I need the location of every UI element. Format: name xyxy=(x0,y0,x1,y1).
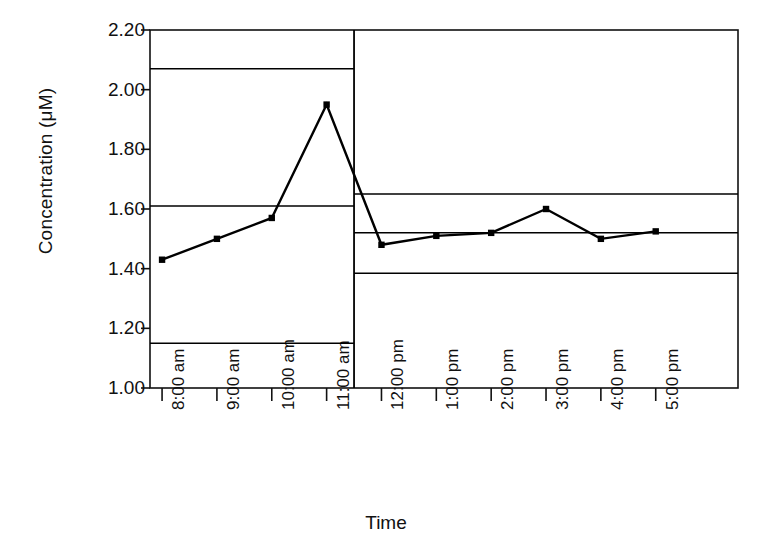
plot-frame xyxy=(150,30,738,388)
control-chart: Concentration (μM) Time 1.001.201.401.60… xyxy=(0,0,772,556)
data-point-marker xyxy=(488,230,494,236)
data-point-marker xyxy=(543,206,549,212)
data-point-marker xyxy=(433,233,439,239)
plot-area xyxy=(0,0,772,556)
data-point-marker xyxy=(214,236,220,242)
data-point-marker xyxy=(323,101,329,107)
data-line xyxy=(162,105,656,260)
data-point-marker xyxy=(378,242,384,248)
data-point-marker xyxy=(159,257,165,263)
data-point-marker xyxy=(653,228,659,234)
data-point-marker xyxy=(269,215,275,221)
data-point-marker xyxy=(598,236,604,242)
